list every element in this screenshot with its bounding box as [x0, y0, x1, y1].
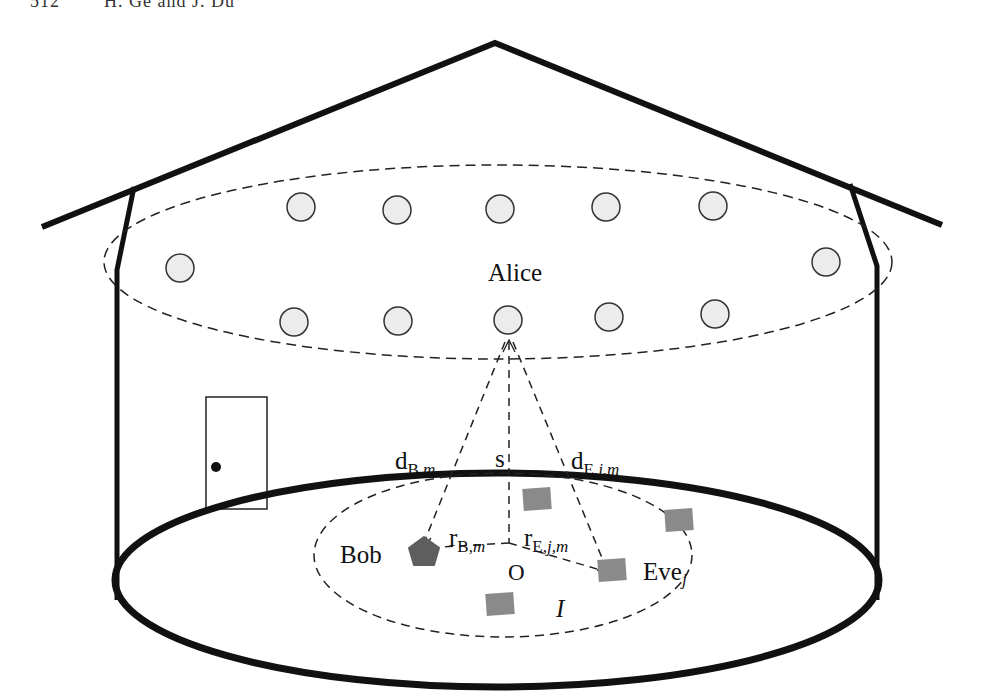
led-icon [384, 307, 412, 335]
led-icon [812, 248, 840, 276]
led-icon [701, 300, 729, 328]
eavesdropper-icon [522, 487, 551, 511]
eavesdropper-icon [485, 592, 514, 616]
r-bob-label: rB,m [449, 524, 485, 556]
eavesdroppers [485, 487, 693, 616]
bob-label: Bob [340, 541, 382, 568]
led-alice-selected-icon [494, 306, 522, 334]
indoor-vlc-diagram: Alice dB,m s dE,j,m rB,m rE,j,m Bob O Ev… [0, 0, 983, 691]
led-icon [486, 195, 514, 223]
led-icon [280, 308, 308, 336]
door-knob [211, 462, 221, 472]
floor [115, 473, 879, 687]
eve-label: Evej [643, 558, 687, 589]
region-I-label: I [555, 595, 566, 622]
led-icon [287, 193, 315, 221]
led-icon [383, 196, 411, 224]
s-label: s [495, 445, 505, 472]
bob-receiver-icon [409, 537, 439, 565]
left-wall [117, 187, 134, 600]
led-icon [166, 254, 194, 282]
led-icon [699, 192, 727, 220]
eavesdropper-icon [664, 508, 693, 532]
eve-j-receiver-icon [597, 558, 626, 582]
alice-label: Alice [488, 259, 542, 286]
led-icon [592, 193, 620, 221]
r-eve-label: rE,j,m [524, 524, 568, 556]
ray-d-bob [425, 342, 505, 540]
origin-label: O [508, 560, 525, 585]
right-wall [850, 184, 877, 600]
led-icon [595, 303, 623, 331]
door [206, 397, 267, 509]
